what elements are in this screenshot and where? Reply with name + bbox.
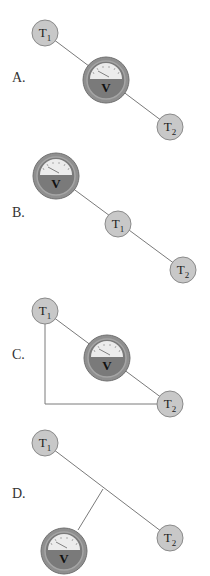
meter-label: V [54,551,74,567]
wire [45,443,170,538]
meter-label: V [46,176,66,192]
option-b-label: B. [12,205,25,221]
t2-label: T2 [157,397,183,416]
option-a-label: A. [12,70,26,86]
t2-label: T2 [170,263,196,282]
t2-label: T2 [157,531,183,550]
t1-label: T1 [105,217,131,236]
t1-label: T1 [32,436,58,455]
meter-label: V [97,358,117,374]
t1-label: T1 [32,26,58,45]
branch-wire [78,489,103,530]
option-d-label: D. [12,486,26,502]
meter-label: V [96,80,116,96]
t2-label: T2 [157,120,183,139]
t1-label: T1 [32,304,58,323]
option-c-label: C. [12,347,25,363]
